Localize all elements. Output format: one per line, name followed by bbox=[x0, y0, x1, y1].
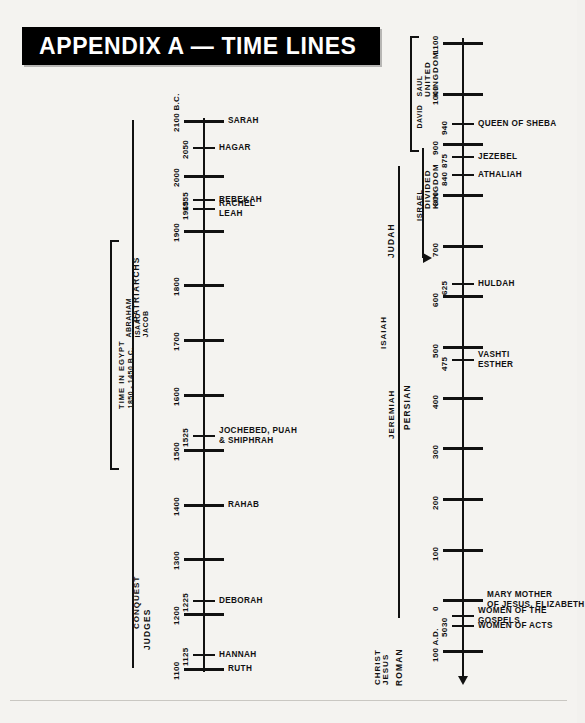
timeline-event-label: VASHTIESTHER bbox=[478, 350, 513, 370]
timeline-event-label: HULDAH bbox=[478, 279, 515, 289]
timeline-tick bbox=[443, 93, 483, 96]
timeline-event-label: RAHAB bbox=[228, 500, 259, 510]
page-footer-rule bbox=[10, 700, 567, 701]
timeline-year-label: 940 bbox=[440, 121, 449, 135]
timeline-year-label: 50 bbox=[440, 628, 449, 638]
timeline-era-caption: ABRAHAMISAACJACOB bbox=[125, 298, 151, 338]
era-arrow-right-icon bbox=[423, 253, 432, 263]
timeline-year-label: 1125 bbox=[181, 647, 190, 666]
timeline-event-line: HULDAH bbox=[478, 279, 515, 288]
timeline-event-label: HANNAH bbox=[219, 650, 257, 660]
timeline-year-label: 400 bbox=[431, 395, 440, 409]
timeline-event-line: HAGAR bbox=[219, 143, 251, 152]
timeline-tick bbox=[452, 625, 474, 627]
timeline-era-caption: JUDAH bbox=[386, 223, 396, 258]
timeline-tick bbox=[443, 650, 483, 653]
timeline-event-label: WOMEN OF ACTS bbox=[478, 621, 553, 631]
timeline-tick bbox=[443, 42, 483, 45]
timeline-year-label: 475 bbox=[440, 357, 449, 371]
timeline-tick bbox=[443, 549, 483, 552]
timeline-tick bbox=[184, 449, 224, 452]
timeline-event-line: QUEEN OF SHEBA bbox=[478, 119, 557, 128]
timeline-event-line: VASHTI bbox=[478, 350, 510, 359]
timeline-event-line: RACHEL bbox=[219, 199, 255, 208]
appendix-title-bar: APPENDIX A — TIME LINES bbox=[22, 27, 380, 65]
timeline-event-label: JEZEBEL bbox=[478, 152, 517, 162]
timeline-tick bbox=[184, 394, 224, 397]
timeline-tick bbox=[184, 504, 224, 507]
timeline-tick bbox=[184, 558, 224, 561]
timeline-year-label: 300 bbox=[431, 445, 440, 459]
timeline-year-label: 2100 B.C. bbox=[172, 93, 181, 132]
timeline-tick bbox=[193, 208, 215, 210]
page-title: APPENDIX A — TIME LINES bbox=[22, 33, 357, 60]
timeline-year-label: 1200 bbox=[172, 606, 181, 625]
timeline-era-caption: JEREMIAH bbox=[387, 390, 396, 439]
timeline-tick bbox=[193, 654, 215, 656]
timeline-tick bbox=[184, 613, 224, 616]
era-divider-line bbox=[398, 166, 400, 618]
timeline-era-caption: CHRIST bbox=[373, 649, 382, 685]
timeline-year-label: 840 bbox=[440, 172, 449, 186]
timeline-event-line: SARAH bbox=[228, 116, 259, 125]
timeline-axis bbox=[462, 38, 464, 676]
timeline-tick bbox=[193, 147, 215, 149]
timeline-tick bbox=[443, 143, 483, 146]
timeline-year-label: 600 bbox=[431, 293, 440, 307]
timeline-event-label: RUTH bbox=[228, 664, 252, 674]
timeline-year-label: 200 bbox=[431, 496, 440, 510]
timeline-tick bbox=[193, 435, 215, 437]
timeline-year-label: 1600 bbox=[172, 387, 181, 406]
timeline-tick bbox=[452, 283, 474, 285]
timeline-tick bbox=[452, 174, 474, 176]
timeline-event-label: JOCHEBED, PUAH& SHIPHRAH bbox=[219, 426, 297, 446]
timeline-era-caption: KINGDOM bbox=[431, 51, 440, 97]
timeline-year-label: 1965 bbox=[181, 201, 190, 220]
era-bracket bbox=[110, 240, 119, 470]
timeline-year-label: 1500 bbox=[172, 442, 181, 461]
timeline-year-label: 1300 bbox=[172, 551, 181, 570]
timeline-tick bbox=[184, 284, 224, 287]
timeline-tick bbox=[184, 175, 224, 178]
timeline-year-label: 100 A.D. bbox=[431, 628, 440, 662]
timeline-event-line: MARY MOTHER bbox=[487, 590, 552, 599]
timeline-year-label: 1400 bbox=[172, 497, 181, 516]
timeline-tick bbox=[193, 600, 215, 602]
timeline-event-line: JEZEBEL bbox=[478, 152, 517, 161]
timeline-era-caption: JUDGES bbox=[142, 608, 152, 650]
timeline-year-label: 625 bbox=[440, 281, 449, 295]
timeline-year-label: 875 bbox=[440, 154, 449, 168]
timeline-tick bbox=[193, 199, 215, 201]
timeline-tick bbox=[184, 339, 224, 342]
timeline-year-label: 1225 bbox=[181, 593, 190, 612]
era-divider-line bbox=[132, 120, 134, 668]
timeline-tick bbox=[443, 194, 483, 197]
timeline-tick bbox=[452, 123, 474, 125]
era-divider-line bbox=[422, 148, 424, 258]
timeline-event-label: RACHELLEAH bbox=[219, 199, 255, 219]
timeline-tick bbox=[443, 599, 483, 602]
timeline-year-label: 900 bbox=[431, 141, 440, 155]
timeline-event-label: DEBORAH bbox=[219, 596, 263, 606]
timeline-tick bbox=[184, 668, 224, 671]
timeline-event-line: JOCHEBED, PUAH bbox=[219, 426, 297, 435]
timeline-year-label: 30 bbox=[440, 618, 449, 628]
timeline-year-label: 1900 bbox=[172, 223, 181, 242]
timeline-event-line: ATHALIAH bbox=[478, 170, 522, 179]
timeline-event-label: SARAH bbox=[228, 116, 259, 126]
timeline-event-line: WOMEN OF ACTS bbox=[478, 621, 553, 630]
timeline-year-label: 1700 bbox=[172, 332, 181, 351]
timeline-tick bbox=[184, 120, 224, 123]
timeline-tick bbox=[443, 447, 483, 450]
timeline-event-label: ATHALIAH bbox=[478, 170, 522, 180]
timeline-year-label: 700 bbox=[431, 243, 440, 257]
timeline-event-line: DEBORAH bbox=[219, 596, 263, 605]
timeline-event-line: RUTH bbox=[228, 664, 252, 673]
timeline-era-caption: PERSIAN bbox=[402, 384, 412, 430]
timeline-tick bbox=[443, 498, 483, 501]
timeline-tick bbox=[443, 346, 483, 349]
timeline-tick bbox=[443, 245, 483, 248]
timeline-tick bbox=[443, 397, 483, 400]
timeline-year-label: 1100 bbox=[172, 661, 181, 680]
timeline-era-caption: KINGDOM bbox=[431, 163, 440, 209]
